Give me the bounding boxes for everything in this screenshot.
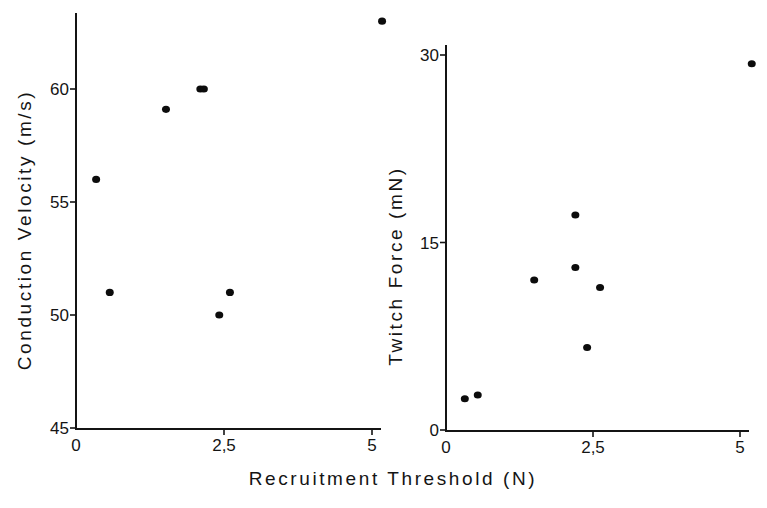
data-point bbox=[215, 311, 223, 318]
x-tick-label: 0 bbox=[71, 436, 80, 455]
x-tick-label: 2,5 bbox=[212, 436, 236, 455]
y-tick-label: 30 bbox=[420, 46, 439, 65]
left-y-axis-title: Conduction Velocity (m/s) bbox=[14, 90, 35, 370]
data-point bbox=[106, 289, 114, 296]
x-tick-label: 2,5 bbox=[581, 438, 605, 457]
data-point bbox=[226, 289, 234, 296]
left-x-ticks: 02,55 bbox=[71, 429, 376, 455]
data-point bbox=[571, 211, 579, 218]
right-y-ticks: 01530 bbox=[420, 46, 446, 440]
x-tick-label: 5 bbox=[735, 438, 744, 457]
y-tick-label: 15 bbox=[420, 234, 439, 253]
data-point bbox=[748, 60, 756, 67]
data-point bbox=[530, 276, 538, 283]
x-tick-label: 5 bbox=[367, 436, 376, 455]
y-tick-label: 50 bbox=[50, 306, 69, 325]
left-y-ticks: 45505560 bbox=[50, 80, 76, 438]
data-point bbox=[92, 176, 100, 183]
data-point bbox=[571, 264, 579, 271]
shared-x-axis-title: Recruitment Threshold (N) bbox=[249, 468, 538, 489]
y-tick-label: 45 bbox=[50, 419, 69, 438]
left-data-points bbox=[92, 18, 386, 319]
y-tick-label: 55 bbox=[50, 193, 69, 212]
y-tick-label: 60 bbox=[50, 80, 69, 99]
right-y-axis-title: Twitch Force (mN) bbox=[385, 166, 406, 365]
data-point bbox=[162, 106, 170, 113]
data-point bbox=[596, 284, 604, 291]
twitch-force-chart: 01530 02,55 Twitch Force (mN) bbox=[385, 45, 756, 457]
right-x-ticks: 02,55 bbox=[441, 431, 744, 457]
data-point bbox=[200, 85, 208, 92]
x-tick-label: 0 bbox=[441, 438, 450, 457]
right-data-points bbox=[461, 60, 756, 402]
figure: 45505560 02,55 Conduction Velocity (m/s)… bbox=[0, 0, 767, 508]
data-point bbox=[378, 18, 386, 25]
data-point bbox=[461, 395, 469, 402]
data-point bbox=[583, 344, 591, 351]
y-tick-label: 0 bbox=[430, 421, 439, 440]
conduction-velocity-chart: 45505560 02,55 Conduction Velocity (m/s) bbox=[14, 13, 386, 455]
data-point bbox=[474, 391, 482, 398]
